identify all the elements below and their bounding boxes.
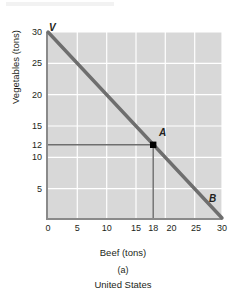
x-tick-18: 18 [148, 224, 158, 233]
y-tick-25: 25 [16, 59, 42, 68]
chart-canvas [46, 32, 222, 220]
y-tick-10: 10 [16, 153, 42, 162]
panel-caption: United States [0, 280, 246, 290]
horizontal-gridlines [48, 32, 222, 189]
ppf-curve [48, 32, 222, 218]
x-tick-30: 30 [217, 224, 227, 233]
x-axis-tick-labels: 0 5 10 15 18 20 25 30 [46, 224, 222, 238]
x-tick-5: 5 [75, 224, 80, 233]
x-tick-10: 10 [102, 224, 112, 233]
label-point-b: B [209, 194, 216, 204]
x-axis-title: Beef (tons) [0, 248, 246, 258]
y-tick-30: 30 [16, 28, 42, 37]
y-tick-20: 20 [16, 90, 42, 99]
point-a-marker [150, 142, 156, 148]
y-axis-tick-labels: 30 25 20 15 12 10 5 [14, 32, 42, 220]
label-point-v: V [49, 23, 56, 33]
y-tick-12: 12 [16, 140, 42, 149]
vertical-gridlines [77, 32, 222, 218]
y-tick-15: 15 [16, 122, 42, 131]
x-tick-20: 20 [166, 224, 176, 233]
x-tick-25: 25 [191, 224, 201, 233]
label-point-a: A [159, 128, 166, 138]
plot-area-wrapper: V A B [46, 32, 222, 220]
panel-tag: (a) [0, 265, 246, 275]
x-tick-15: 15 [131, 224, 141, 233]
y-tick-5: 5 [16, 184, 42, 193]
reference-lines [48, 145, 153, 218]
x-tick-0: 0 [45, 224, 50, 233]
ppf-figure-united-states: Vegetables (tons) 30 25 20 15 12 10 5 [0, 0, 246, 298]
